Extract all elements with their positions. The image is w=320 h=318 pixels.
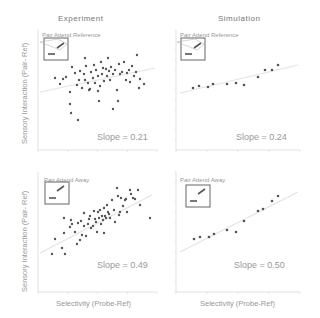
- data-point: [139, 78, 141, 80]
- data-point: [143, 83, 145, 85]
- data-point: [207, 86, 210, 89]
- data-point: [271, 200, 274, 203]
- data-point: [84, 57, 86, 59]
- data-point: [198, 85, 201, 88]
- data-point: [61, 247, 63, 249]
- data-point: [95, 221, 97, 223]
- data-point: [81, 234, 83, 236]
- data-point: [83, 225, 85, 227]
- data-point: [121, 71, 123, 73]
- data-point: [108, 70, 110, 72]
- slope-annotation: Slope = 0.50: [234, 260, 285, 270]
- data-point: [79, 239, 81, 241]
- data-point: [100, 61, 102, 63]
- data-point: [88, 218, 90, 220]
- data-point: [98, 100, 100, 102]
- data-point: [243, 84, 246, 87]
- data-point: [83, 212, 85, 214]
- data-point: [114, 221, 116, 223]
- data-point: [149, 217, 151, 219]
- data-point: [117, 195, 119, 197]
- slope-annotation: Slope = 0.49: [97, 260, 148, 270]
- data-point: [109, 79, 111, 81]
- data-point: [81, 87, 83, 89]
- data-point: [74, 72, 76, 74]
- data-point: [97, 75, 99, 77]
- data-point: [109, 217, 111, 219]
- data-point: [78, 79, 80, 81]
- data-point: [90, 227, 92, 229]
- panel-label: Pair Attend Reference: [180, 32, 239, 38]
- data-point: [125, 198, 127, 200]
- data-point: [128, 69, 130, 71]
- data-point: [118, 63, 120, 65]
- data-point: [126, 211, 128, 213]
- data-point: [213, 233, 216, 236]
- stimulus-inset-icon: [177, 38, 205, 60]
- panel-3: Pair Attend AwaySlope = 0.49: [38, 172, 157, 294]
- data-point: [62, 78, 64, 80]
- data-point: [54, 77, 56, 79]
- data-point: [193, 238, 196, 241]
- data-point: [76, 243, 78, 245]
- data-point: [70, 219, 72, 221]
- data-point: [94, 82, 96, 84]
- data-point: [119, 211, 121, 213]
- data-point: [87, 82, 89, 84]
- data-point: [277, 195, 280, 198]
- data-point: [129, 189, 131, 191]
- data-point: [235, 82, 238, 85]
- data-point: [111, 199, 113, 201]
- data-point: [112, 73, 114, 75]
- data-point: [97, 211, 99, 213]
- data-point: [59, 83, 61, 85]
- data-point: [70, 112, 72, 114]
- data-point: [138, 87, 140, 89]
- data-point: [51, 253, 53, 255]
- data-point: [80, 220, 82, 222]
- data-point: [98, 217, 100, 219]
- data-point: [102, 67, 104, 69]
- data-point: [114, 69, 116, 71]
- data-point: [103, 207, 105, 209]
- data-point: [129, 81, 131, 83]
- slope-annotation: Slope = 0.21: [97, 132, 148, 142]
- stimulus-inset-icon: [40, 38, 68, 60]
- data-point: [92, 225, 94, 227]
- data-point: [89, 215, 91, 217]
- data-point: [257, 210, 260, 213]
- slope-annotation: Slope = 0.24: [236, 132, 287, 142]
- data-point: [262, 208, 265, 211]
- data-point: [112, 108, 114, 110]
- data-point: [108, 213, 110, 215]
- data-point: [88, 89, 90, 91]
- data-point: [123, 61, 125, 63]
- data-point: [226, 229, 229, 232]
- data-point: [102, 219, 104, 221]
- data-point: [54, 238, 56, 240]
- data-point: [76, 84, 78, 86]
- data-point: [110, 66, 112, 68]
- data-point: [63, 217, 65, 219]
- data-point: [130, 193, 132, 195]
- data-point: [116, 89, 118, 91]
- data-point: [105, 68, 107, 70]
- data-point: [264, 69, 267, 72]
- data-point: [106, 204, 108, 206]
- data-point: [212, 83, 215, 86]
- regression-line: [40, 68, 155, 92]
- data-point: [134, 198, 136, 200]
- data-point: [77, 222, 79, 224]
- data-point: [243, 220, 246, 223]
- data-point: [120, 197, 122, 199]
- panel-label: Pair Attend Away: [180, 177, 225, 183]
- data-point: [101, 215, 103, 217]
- data-point: [74, 231, 76, 233]
- data-point: [94, 218, 96, 220]
- data-point: [84, 79, 86, 81]
- data-point: [99, 85, 101, 87]
- data-point: [97, 90, 99, 92]
- data-point: [101, 73, 103, 75]
- data-point: [93, 210, 95, 212]
- data-point: [235, 231, 238, 234]
